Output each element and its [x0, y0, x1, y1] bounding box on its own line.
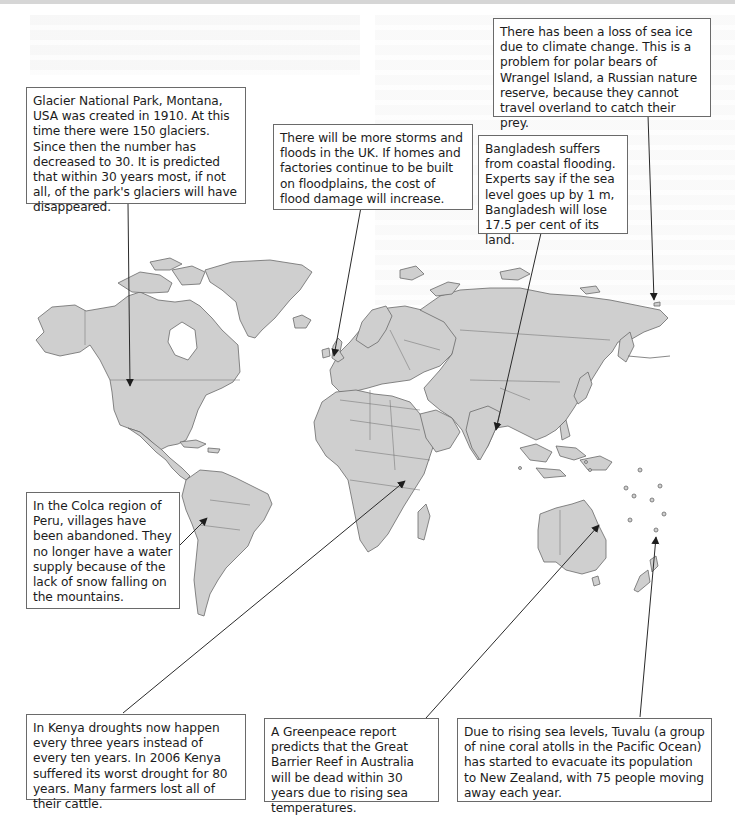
- annotation-tuvalu: Due to rising sea levels, Tuvalu (a grou…: [457, 718, 712, 802]
- annotation-glacier-national-park: Glacier National Park, Montana, USA was …: [26, 87, 246, 204]
- south-america: [182, 470, 272, 616]
- annotation-text: Due to rising sea levels, Tuvalu (a grou…: [464, 725, 705, 800]
- annotation-text: In Kenya droughts now happen every three…: [33, 721, 227, 811]
- annotation-bangladesh: Bangladesh suffers from coastal flooding…: [478, 135, 628, 234]
- annotation-kenya-drought: In Kenya droughts now happen every three…: [26, 714, 246, 800]
- annotation-text: A Greenpeace report predicts that the Gr…: [271, 725, 414, 815]
- annotation-great-barrier-reef: A Greenpeace report predicts that the Gr…: [264, 718, 439, 802]
- india: [466, 406, 500, 460]
- australia: [538, 500, 606, 574]
- annotation-text: Bangladesh suffers from coastal flooding…: [485, 142, 616, 247]
- annotation-peru-colca: In the Colca region of Peru, villages ha…: [26, 492, 180, 609]
- new-zealand: [650, 556, 658, 572]
- north-america: [36, 292, 240, 450]
- annotation-uk-floods: There will be more storms and floods in …: [273, 124, 473, 210]
- annotation-text: Glacier National Park, Montana, USA was …: [33, 94, 237, 214]
- annotation-text: There will be more storms and floods in …: [280, 131, 463, 206]
- annotation-wrangel-island: There has been a loss of sea ice due to …: [493, 18, 711, 117]
- wrangel-island: [654, 302, 660, 306]
- annotation-text: In the Colca region of Peru, villages ha…: [33, 499, 172, 604]
- annotation-text: There has been a loss of sea ice due to …: [500, 25, 697, 130]
